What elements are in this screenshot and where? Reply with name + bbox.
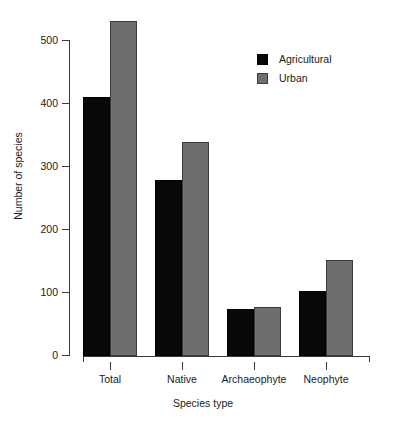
bar-archaeophyte-urban	[254, 307, 281, 356]
bar-chart-plot-area: 500 400 300 200 100 0 Total Native Archa…	[0, 0, 406, 431]
y-axis-title: Number of species	[12, 96, 24, 256]
x-axis-title: Species type	[0, 397, 406, 409]
y-axis-tick-400	[62, 103, 70, 104]
y-axis-tick-100	[62, 292, 70, 293]
y-axis-line	[69, 40, 70, 356]
x-axis-line	[83, 356, 370, 357]
bar-neophyte-urban	[326, 260, 353, 356]
x-axis-tick-archaeophyte	[254, 362, 255, 370]
y-axis-tick-0	[62, 355, 70, 356]
legend-item-agricultural: Agricultural	[257, 51, 332, 68]
x-axis-label-native: Native	[167, 373, 197, 385]
chart-legend: Agricultural Urban	[257, 51, 332, 89]
x-axis-cap-left	[83, 356, 84, 362]
bar-total-urban	[110, 21, 137, 356]
legend-item-urban: Urban	[257, 70, 332, 87]
bar-archaeophyte-agricultural	[227, 309, 254, 356]
y-axis-tick-300	[62, 166, 70, 167]
y-axis-label-500: 500	[40, 35, 58, 46]
x-axis-cap-right	[369, 356, 370, 362]
figure-canvas: 500 400 300 200 100 0 Total Native Archa…	[0, 0, 406, 431]
legend-label-agricultural: Agricultural	[279, 54, 332, 65]
x-axis-label-archaeophyte: Archaeophyte	[222, 373, 287, 385]
x-axis-label-neophyte: Neophyte	[304, 373, 349, 385]
y-axis-label-400: 400	[40, 98, 58, 109]
legend-swatch-agricultural-icon	[257, 54, 268, 65]
x-axis-tick-total	[110, 362, 111, 370]
x-axis-tick-neophyte	[326, 362, 327, 370]
bar-total-agricultural	[83, 97, 110, 356]
y-axis-label-0: 0	[52, 350, 58, 361]
y-axis-label-100: 100	[40, 287, 58, 298]
y-axis-tick-500	[62, 40, 70, 41]
y-axis-label-200: 200	[40, 224, 58, 235]
y-axis-tick-200	[62, 229, 70, 230]
x-axis-label-total: Total	[99, 373, 121, 385]
legend-label-urban: Urban	[279, 73, 308, 84]
y-axis-label-300: 300	[40, 161, 58, 172]
legend-swatch-urban-icon	[257, 73, 268, 84]
caption-partial	[10, 423, 340, 431]
bar-native-agricultural	[155, 180, 182, 356]
bar-native-urban	[182, 142, 209, 356]
x-axis-tick-native	[182, 362, 183, 370]
bar-neophyte-agricultural	[299, 291, 326, 356]
